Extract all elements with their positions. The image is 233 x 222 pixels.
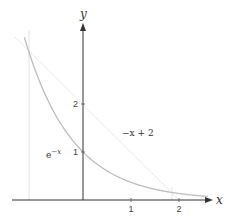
tangent-line-label: −x + 2 xyxy=(122,128,154,138)
y-axis-label: y xyxy=(79,7,87,21)
function-plot: 1 2 1 2 x y e−x −x + 2 xyxy=(0,0,233,222)
x-tick-label-1: 1 xyxy=(128,204,133,214)
x-axis-label: x xyxy=(216,193,223,207)
y-tick-label-1: 1 xyxy=(73,147,78,157)
x-tick-label-2: 2 xyxy=(176,204,181,214)
exponential-label: e−x xyxy=(46,148,61,160)
y-tick-label-2: 2 xyxy=(73,99,78,109)
x-axis-arrow-icon xyxy=(205,197,213,203)
exponential-label-exponent: −x xyxy=(51,148,61,156)
tangent-line-curve xyxy=(15,37,179,200)
exponential-curve xyxy=(24,37,207,196)
y-axis-arrow-icon xyxy=(80,23,86,31)
